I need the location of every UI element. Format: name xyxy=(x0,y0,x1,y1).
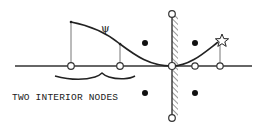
filled-dot xyxy=(142,90,148,96)
filled-dot xyxy=(192,90,198,96)
axis-node xyxy=(192,63,198,69)
psi-symbol: ψ xyxy=(101,22,110,35)
interior-node xyxy=(117,63,124,70)
star-icon xyxy=(215,34,228,46)
axis-node xyxy=(217,63,223,69)
curly-brace xyxy=(55,73,135,79)
axis-node-center xyxy=(169,63,176,70)
filled-dot xyxy=(142,40,148,46)
filled-dot xyxy=(192,40,198,46)
wall-bottom-node xyxy=(169,115,176,122)
wall-top-node xyxy=(169,11,176,18)
curve-point-start xyxy=(70,21,73,24)
curve-point-mid xyxy=(119,43,122,46)
interior-nodes-label: TWO INTERIOR NODES xyxy=(12,92,118,103)
interior-node xyxy=(68,63,75,70)
interior-nodes-diagram: ψ TWO INTERIOR NODES xyxy=(0,0,264,126)
